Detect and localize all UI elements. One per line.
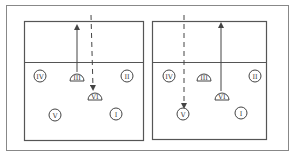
player-label: IV [36,73,44,81]
player-i: I [235,107,247,119]
volleyball-rotation-diagram: IVIIIIIVIVIIVIIIIIVIVI [0,0,294,156]
player-vi: VI [215,93,229,101]
player-i: I [110,108,122,120]
player-v: V [177,108,189,120]
player-label: II [124,73,130,81]
court-left: IVIIIIIVIVI [24,15,144,141]
ball-path-arrow [91,15,93,88]
player-iii: III [70,74,84,82]
court-right: IVIIIIIVIVI [152,15,267,140]
player-label: III [200,74,208,82]
player-label: VI [90,93,99,101]
player-label: I [240,110,243,118]
outer-frame [7,6,289,151]
player-ii: II [121,70,133,82]
player-v: V [49,109,61,121]
player-label: IV [165,73,173,81]
player-label: III [73,74,81,82]
player-ii: II [249,70,261,82]
player-label: VI [217,93,226,101]
player-label: V [180,111,186,119]
player-vi: VI [88,93,102,101]
player-label: I [115,111,118,119]
player-iii: III [197,74,211,82]
player-label: V [52,112,58,120]
player-iv: IV [163,70,175,82]
player-iv: IV [34,70,46,82]
player-label: II [252,73,258,81]
